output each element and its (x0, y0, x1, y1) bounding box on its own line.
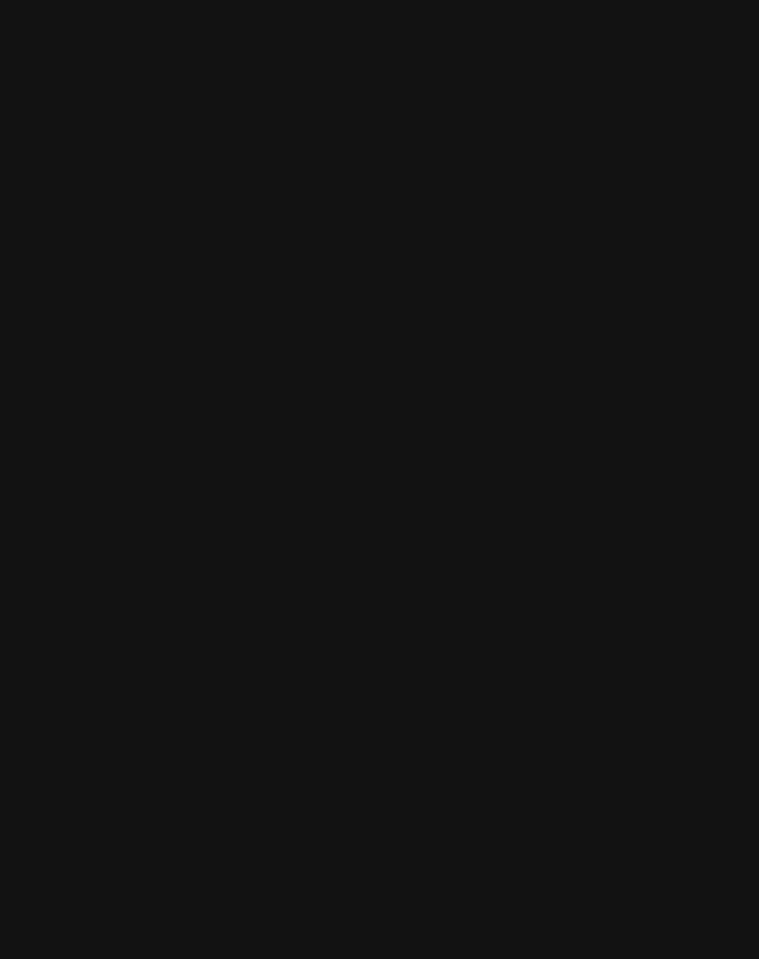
screenshot-root (0, 0, 759, 959)
